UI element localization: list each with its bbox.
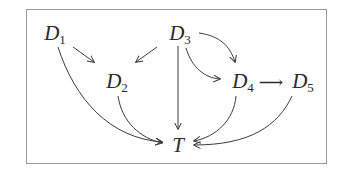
node-d2-subscript: 2	[121, 80, 128, 95]
node-t: T	[172, 135, 184, 156]
node-d3: D3	[169, 23, 191, 46]
edge-d1-t	[58, 47, 162, 142]
edge-d4-t	[194, 96, 236, 141]
node-d1-subscript: 1	[59, 32, 66, 47]
edge-d3-d4-lower	[186, 48, 220, 79]
node-d4: D4	[232, 71, 254, 94]
node-d4-subscript: 4	[247, 80, 254, 95]
node-d5-subscript: 5	[307, 80, 314, 95]
edge-d1-d2	[73, 47, 94, 62]
edge-d2-t	[118, 96, 162, 143]
node-d2: D2	[106, 71, 128, 94]
node-d4-label: D	[232, 69, 247, 93]
node-d5-label: D	[292, 69, 307, 93]
node-d2-label: D	[106, 69, 121, 93]
edge-d5-t	[194, 96, 292, 145]
node-t-label: T	[172, 133, 184, 157]
node-d3-label: D	[169, 21, 184, 45]
edge-d3-d2	[136, 47, 157, 62]
edge-d4-d5-arrow-icon: ⟶	[259, 72, 283, 92]
node-d1: D1	[44, 23, 66, 46]
node-d5: D5	[292, 71, 314, 94]
node-d3-subscript: 3	[184, 32, 191, 47]
edge-d3-d4-upper	[199, 33, 235, 62]
node-d1-label: D	[44, 21, 59, 45]
